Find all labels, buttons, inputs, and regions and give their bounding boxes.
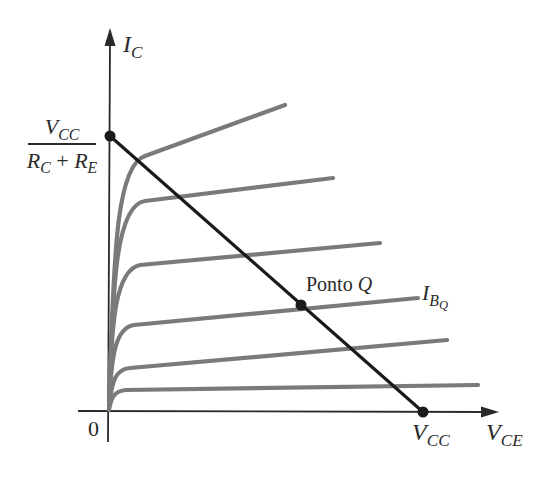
x-axis-label-sub: CE	[501, 431, 523, 450]
x-intercept-label: VCC	[412, 420, 450, 444]
ibq-label-sub: B	[429, 292, 439, 309]
characteristic-curves	[109, 105, 478, 410]
denominator-plus: +	[56, 148, 68, 173]
axes	[78, 28, 499, 442]
y-axis-arrow-icon	[105, 28, 116, 46]
x-intercept-point	[418, 407, 429, 418]
x-axis-label-main: V	[486, 419, 501, 445]
ib-curve-5	[110, 178, 333, 380]
ib-curve-2	[109, 340, 447, 404]
y-axis-label: IC	[123, 32, 143, 56]
fraction-numerator: VCC	[26, 114, 98, 143]
denominator-r2-sub: E	[88, 159, 98, 176]
denominator-r2: R	[74, 148, 87, 173]
y-axis-label-main: I	[123, 31, 131, 57]
y-axis-label-sub: C	[131, 43, 143, 62]
ibq-label: IBQ	[422, 282, 448, 304]
ib-curve-6	[110, 105, 285, 372]
q-point	[296, 300, 307, 311]
x-intercept-label-main: V	[412, 419, 427, 445]
x-axis-label: VCE	[486, 420, 523, 444]
ibq-label-subsub: Q	[439, 298, 448, 312]
ib-curve-1	[109, 385, 478, 410]
numerator-sub: CC	[58, 126, 79, 143]
y-intercept-point	[105, 131, 116, 142]
origin-label: 0	[88, 418, 99, 440]
q-point-label-var: Q	[358, 273, 372, 295]
denominator-r1-sub: C	[40, 159, 51, 176]
x-intercept-label-sub: CC	[427, 431, 450, 450]
x-axis-arrow-icon	[481, 407, 499, 418]
q-point-label-text: Ponto	[306, 273, 353, 295]
denominator-r1: R	[27, 148, 40, 173]
ibq-label-sub-wrap: BQ	[429, 292, 448, 309]
y-intercept-label: VCC RC + RE	[26, 114, 98, 174]
load-line	[110, 136, 423, 412]
fraction-denominator: RC + RE	[26, 145, 98, 174]
q-point-label: Ponto Q	[306, 274, 372, 294]
load-line-diagram	[0, 0, 541, 480]
numerator-v: V	[45, 114, 58, 139]
